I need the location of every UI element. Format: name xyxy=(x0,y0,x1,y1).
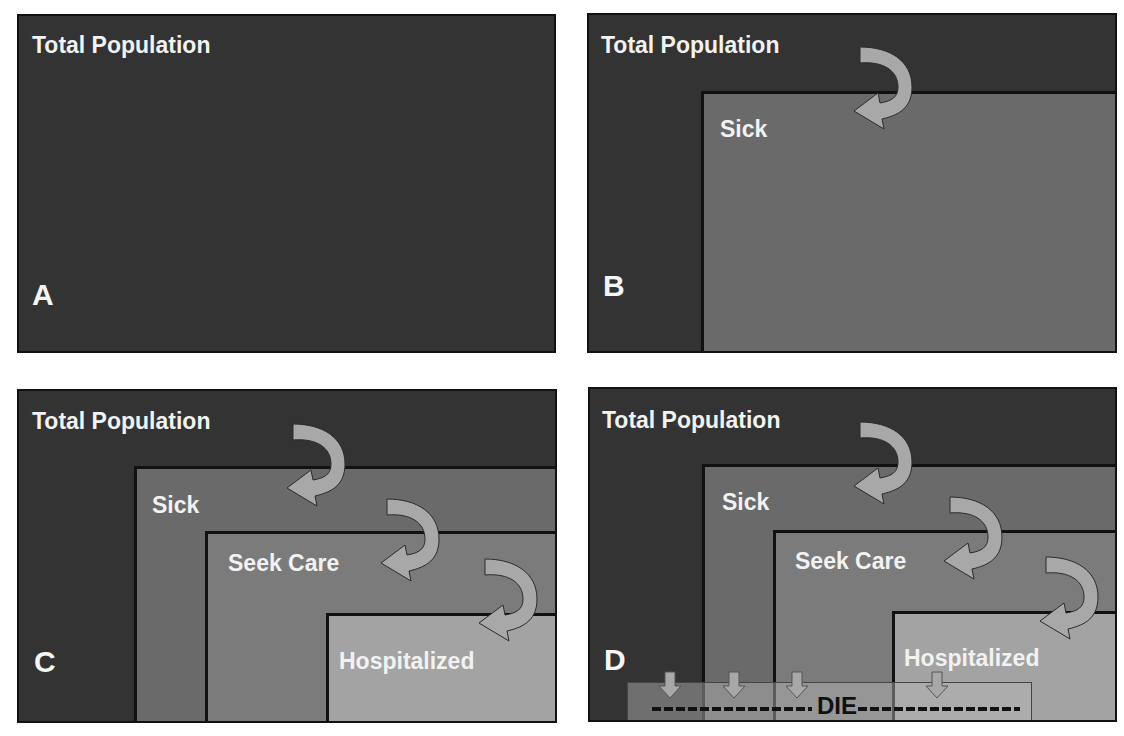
label-hospitalized: Hospitalized xyxy=(904,645,1039,672)
panel-letter: D xyxy=(604,643,626,677)
label-sick: Sick xyxy=(152,492,199,519)
label-total-population: Total Population xyxy=(602,407,780,434)
panel-letter: C xyxy=(34,645,56,679)
label-hospitalized: Hospitalized xyxy=(339,648,474,675)
label-seek-care: Seek Care xyxy=(795,548,906,575)
panel-c: Total Population Sick Seek Care Hospital… xyxy=(17,389,557,723)
label-total-population: Total Population xyxy=(32,408,210,435)
panel-b: Total Population Sick B xyxy=(587,13,1117,353)
panel-letter: A xyxy=(32,278,54,312)
label-seek-care: Seek Care xyxy=(228,550,339,577)
label-total-population: Total Population xyxy=(32,32,210,59)
panel-a: Total Population A xyxy=(17,14,556,353)
label-total-population: Total Population xyxy=(601,32,779,59)
panel-letter: B xyxy=(603,269,625,303)
label-sick: Sick xyxy=(720,116,767,143)
label-sick: Sick xyxy=(722,489,769,516)
panel-d: Total Population Sick Seek Care Hospital… xyxy=(588,387,1117,722)
label-die: DIE xyxy=(817,692,857,720)
